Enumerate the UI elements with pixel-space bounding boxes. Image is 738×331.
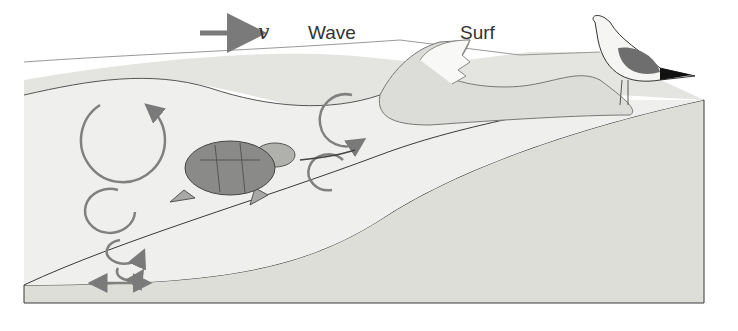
wave-label: Wave [308,22,356,44]
beach-wave-diagram [0,0,738,331]
velocity-label: v [258,20,269,44]
surf-label: Surf [460,22,495,44]
